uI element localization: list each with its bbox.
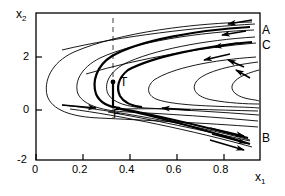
x-axis-title: x1: [255, 171, 265, 186]
arrow-upper-4: [204, 54, 230, 60]
x-axis-ticks: [36, 154, 224, 160]
x-tick-label-0: 0: [32, 164, 38, 175]
figure-canvas: x2 x1 2 0 -2 0 0.2 0.4 0.6 0.8 T F A C B: [0, 0, 285, 196]
separatrix-mid-bold: [118, 42, 252, 107]
arrow-mid-inflow: [162, 108, 190, 110]
x-tick-label-0.6: 0.6: [166, 164, 181, 175]
y-tick-label-2: 2: [23, 51, 29, 62]
point-T-label: T: [120, 76, 127, 88]
y-tick-label-0: 0: [23, 104, 29, 115]
label-B: B: [262, 132, 270, 144]
x-axis-title-sub: 1: [261, 177, 265, 186]
point-F-label: F: [113, 108, 120, 120]
trajectory-right-1: [194, 62, 259, 104]
arrow-upper-5: [228, 60, 244, 67]
trajectory-outer-1: [46, 22, 258, 127]
x-tick-label-0.8: 0.8: [213, 164, 228, 175]
phase-portrait-plot: [0, 0, 285, 196]
marker-group: [111, 80, 116, 85]
y-axis-title-sub: 2: [22, 14, 26, 23]
label-A: A: [262, 24, 270, 36]
x-tick-label-0.2: 0.2: [72, 164, 87, 175]
label-C: C: [262, 39, 271, 51]
y-axis-title: x2: [16, 8, 26, 23]
trajectory-lower-thin-2: [70, 109, 252, 147]
trajectory-upper-thin-2: [86, 43, 256, 74]
x-tick-label-0.4: 0.4: [119, 164, 134, 175]
y-tick-label-neg2: -2: [17, 154, 27, 165]
point-T-dot: [111, 80, 116, 85]
y-axis-ticks: [36, 57, 42, 110]
